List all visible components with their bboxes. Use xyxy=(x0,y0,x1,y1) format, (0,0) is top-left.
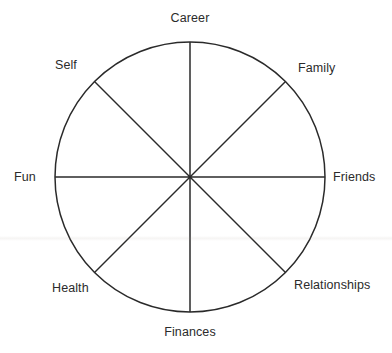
wheel-label-relationships: Relationships xyxy=(294,278,370,292)
wheel-label-health: Health xyxy=(52,281,89,295)
wheel-label-self: Self xyxy=(55,58,77,72)
wheel-label-career: Career xyxy=(171,11,210,25)
wheel-label-finances: Finances xyxy=(164,325,216,339)
wheel-label-fun: Fun xyxy=(14,170,36,184)
wheel-of-life-figure: Career Family Friends Relationships Fina… xyxy=(0,0,392,353)
wheel-label-friends: Friends xyxy=(333,170,375,184)
wheel-label-family: Family xyxy=(298,61,335,75)
wheel-center-point xyxy=(188,175,191,178)
